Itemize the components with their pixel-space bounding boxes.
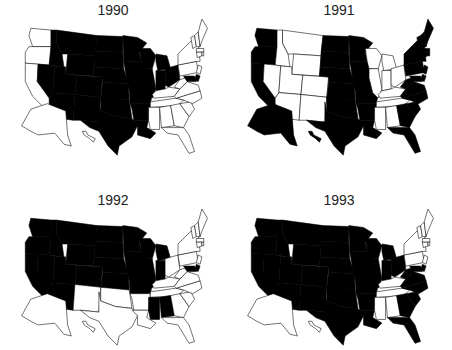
state-ma	[422, 48, 429, 52]
state-fl	[161, 318, 194, 344]
state-ak	[22, 104, 72, 146]
map-panel-1992: 1992	[0, 190, 226, 350]
state-or	[251, 237, 277, 255]
state-nd	[321, 226, 349, 243]
state-in	[156, 261, 165, 281]
state-fl	[387, 318, 420, 344]
map-panel-1990: 1990	[0, 0, 226, 166]
state-me	[424, 19, 433, 47]
state-or	[251, 47, 277, 65]
state-sd	[94, 51, 123, 68]
state-me	[424, 209, 433, 237]
state-nm	[73, 284, 101, 312]
state-wa	[29, 218, 51, 236]
state-or	[25, 47, 51, 65]
state-ct	[196, 52, 202, 58]
state-me	[198, 209, 207, 237]
state-mt	[283, 220, 323, 246]
state-wy	[292, 244, 321, 266]
state-ar	[130, 104, 150, 121]
state-hi	[308, 131, 321, 142]
state-fl	[161, 128, 194, 154]
state-in	[382, 71, 391, 91]
state-in	[156, 71, 165, 91]
state-wy	[66, 244, 95, 266]
state-co	[75, 75, 103, 97]
state-ak	[248, 294, 298, 336]
state-ms	[149, 297, 160, 319]
state-ma	[196, 238, 203, 242]
state-co	[301, 75, 329, 97]
state-ma	[196, 48, 203, 52]
state-nm	[299, 284, 327, 312]
state-nm	[73, 94, 101, 122]
state-sd	[320, 241, 349, 258]
state-nm	[299, 94, 327, 122]
state-ri	[428, 242, 430, 246]
us-map	[0, 0, 226, 166]
state-co	[75, 265, 103, 287]
state-hi	[82, 131, 95, 142]
state-sd	[320, 51, 349, 68]
state-ct	[196, 242, 202, 248]
state-sd	[94, 241, 123, 258]
state-ri	[202, 52, 204, 56]
state-ms	[375, 107, 386, 129]
state-mt	[57, 220, 97, 246]
state-hi	[308, 321, 321, 332]
state-wy	[66, 54, 95, 76]
state-wa	[29, 28, 51, 46]
state-wa	[255, 218, 277, 236]
state-ri	[202, 242, 204, 246]
state-fl	[387, 128, 420, 154]
state-ma	[422, 238, 429, 242]
us-map	[226, 190, 452, 350]
us-map	[226, 0, 452, 166]
state-hi	[82, 321, 95, 332]
state-ar	[356, 294, 376, 311]
state-ar	[130, 294, 150, 311]
state-mt	[57, 30, 97, 56]
state-co	[301, 265, 329, 287]
state-nd	[321, 36, 349, 53]
state-ri	[428, 52, 430, 56]
state-or	[25, 237, 51, 255]
state-nd	[95, 226, 123, 243]
state-ar	[356, 104, 376, 121]
us-map	[0, 190, 226, 350]
state-wy	[292, 54, 321, 76]
state-ct	[422, 52, 428, 58]
state-ms	[375, 297, 386, 319]
map-panel-1991: 1991	[226, 0, 452, 166]
state-nd	[95, 36, 123, 53]
state-ak	[248, 104, 298, 146]
map-panel-1993: 1993	[226, 190, 452, 350]
state-wa	[255, 28, 277, 46]
state-ct	[422, 242, 428, 248]
state-me	[198, 19, 207, 47]
state-ak	[22, 294, 72, 336]
state-in	[382, 261, 391, 281]
state-ms	[149, 107, 160, 129]
state-mt	[283, 30, 323, 56]
